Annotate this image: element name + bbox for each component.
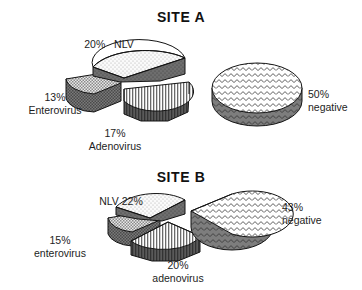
site-b-nlv-text: NLV 22% [99,195,143,207]
site-b-label-negative: 43% negative [282,201,358,226]
site-b-enterovirus-name: enterovirus [8,247,112,260]
site-b-slice-negative [191,191,293,250]
site-a-enterovirus-name: Enterovirus [2,104,108,117]
dual-pie-chart-figure: SITE A [0,0,362,290]
site-a-negative-name: negative [308,101,362,114]
site-a-chart: SITE A [0,0,362,160]
site-a-label-adenovirus: 17% Adenovirus [57,127,173,152]
site-a-enterovirus-value: 13% [2,91,108,104]
site-b-enterovirus-value: 15% [8,234,112,247]
site-a-label-negative: 50% negative [308,88,362,113]
site-b-label-nlv: NLV 22% [73,195,169,208]
site-a-nlv-name: NLV [114,38,134,50]
site-a-label-enterovirus: 13% Enterovirus [2,91,108,116]
site-b-label-enterovirus: 15% enterovirus [8,234,112,259]
site-b-label-adenovirus: 20% adenovirus [122,259,234,284]
site-b-negative-name: negative [282,214,358,227]
site-a-adenovirus-value: 17% [57,127,173,140]
site-a-slice-adenovirus [124,82,194,121]
site-a-pie-graphic [0,0,362,160]
site-b-adenovirus-value: 20% [122,259,234,272]
site-a-label-nlv: 20% NLV [54,38,164,51]
site-a-slice-negative [212,63,302,126]
site-a-adenovirus-name: Adenovirus [57,140,173,153]
site-b-negative-value: 43% [282,201,358,214]
site-b-chart: SITE B [0,160,362,290]
site-b-adenovirus-name: adenovirus [122,272,234,285]
site-a-nlv-value: 20% [84,38,105,50]
site-a-negative-value: 50% [308,88,362,101]
